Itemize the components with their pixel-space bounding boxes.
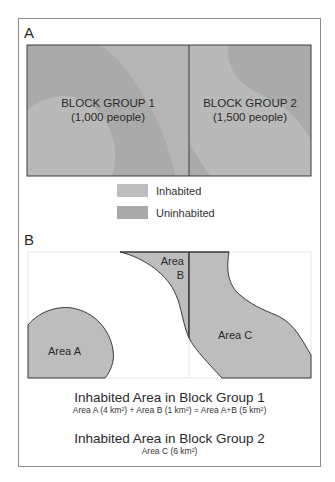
panel-b-label: B <box>24 231 34 248</box>
block-group-2-population: (1,500 people) <box>189 110 311 124</box>
legend-item-inhabited: Inhabited <box>117 184 201 197</box>
caption-1-title: Inhabited Area in Block Group 1 <box>18 390 321 405</box>
caption-1-detail: Area A (4 km²) + Area B (1 km²) = Area A… <box>18 405 321 415</box>
legend-label-inhabited: Inhabited <box>156 185 201 197</box>
area-b-label-line2: B <box>150 268 184 282</box>
block-group-1-label: BLOCK GROUP 1 (1,000 people) <box>27 96 189 124</box>
legend-item-uninhabited: Uninhabited <box>117 206 215 219</box>
block-group-2-label: BLOCK GROUP 2 (1,500 people) <box>189 96 311 124</box>
caption-2-detail: Area C (6 km²) <box>18 446 321 456</box>
caption-2-title: Inhabited Area in Block Group 2 <box>18 431 321 446</box>
caption-block-group-2: Inhabited Area in Block Group 2 Area C (… <box>18 431 321 456</box>
block-group-2-name: BLOCK GROUP 2 <box>189 96 311 110</box>
inhabited-swatch <box>117 184 148 197</box>
uninhabited-swatch <box>117 206 148 219</box>
area-b-label-line1: Area <box>150 254 184 268</box>
caption-block-group-1: Inhabited Area in Block Group 1 Area A (… <box>18 390 321 415</box>
area-c-label: Area C <box>218 329 252 341</box>
area-b-label: Area B <box>150 254 184 282</box>
area-a-label: Area A <box>48 345 81 357</box>
legend-label-uninhabited: Uninhabited <box>156 207 215 219</box>
block-group-1-name: BLOCK GROUP 1 <box>27 96 189 110</box>
block-group-1-population: (1,000 people) <box>27 110 189 124</box>
